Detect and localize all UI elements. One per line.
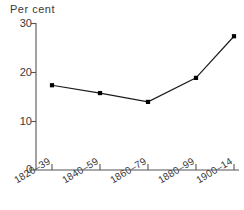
data-point-1900–14 — [232, 34, 236, 38]
line-chart: Per cent 30 20 10 0 1820–39 1840–59 1860… — [0, 0, 244, 210]
data-point-1860–79 — [146, 100, 150, 104]
data-point-1820–39 — [50, 83, 54, 87]
data-point-1840–59 — [98, 91, 102, 95]
data-point-markers — [50, 34, 236, 104]
data-series-line — [52, 36, 234, 102]
data-point-1880–99 — [194, 76, 198, 80]
